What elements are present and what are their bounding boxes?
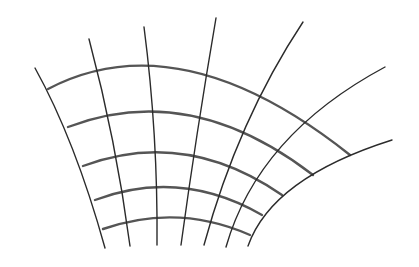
radial-line-6: [226, 67, 385, 247]
radial-line-3: [144, 27, 157, 245]
arc-line-5: [103, 217, 250, 235]
arc-line-2: [68, 111, 313, 175]
curvilinear-mesh-diagram: [0, 0, 419, 267]
arc-line-4: [95, 187, 262, 215]
radial-line-1: [35, 68, 105, 248]
radial-line-4: [181, 18, 216, 245]
radial-lines-group: [35, 18, 392, 248]
radial-line-7: [248, 140, 392, 246]
arc-line-1: [48, 66, 350, 155]
